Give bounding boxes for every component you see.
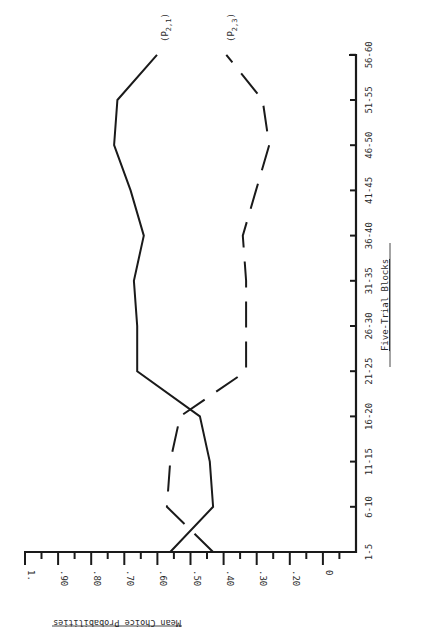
series-p21-line [114, 55, 213, 552]
value-tick-label: .90 [59, 570, 69, 586]
category-tick-label: 1-5 [364, 544, 374, 560]
category-tick-label: 21-25 [364, 358, 374, 385]
value-tick-label: .40 [225, 570, 235, 586]
x-axis-title: Five-Trial Blocks [380, 259, 390, 351]
series-p21-label: (P2,1) [160, 13, 173, 42]
chart: 1..90.80.70.60.50.40.30.200 1-56-1011-15… [0, 0, 421, 644]
axes [24, 54, 357, 553]
category-tick-label: 56-60 [364, 41, 374, 68]
value-tick-label: .80 [92, 570, 102, 586]
y-axis-ticks: 1..90.80.70.60.50.40.30.200 [25, 552, 339, 586]
value-tick-label: .30 [258, 570, 268, 586]
category-tick-label: 31-35 [364, 267, 374, 294]
value-tick-label: 1. [26, 570, 36, 581]
category-tick-label: 36-40 [364, 222, 374, 249]
value-tick-label: .50 [192, 570, 202, 586]
series-lines [114, 55, 269, 552]
series-p23-line [167, 55, 269, 552]
value-tick-label: .70 [125, 570, 135, 586]
category-tick-label: 26-30 [364, 312, 374, 339]
labels: Five-Trial BlocksMean Choice Probabiliti… [52, 13, 390, 628]
category-tick-label: 51-55 [364, 86, 374, 113]
category-tick-label: 46-50 [364, 132, 374, 159]
series-p23-label: (P2,3) [226, 13, 239, 42]
category-tick-label: 41-45 [364, 177, 374, 204]
value-tick-label: .60 [158, 570, 168, 586]
value-tick-label: .20 [291, 570, 301, 586]
x-axis-ticks: 1-56-1011-1516-2021-2526-3031-3536-4041-… [350, 41, 374, 560]
y-axis-title: Mean Choice Probabilities [53, 618, 181, 628]
value-tick-label: 0 [324, 570, 334, 575]
category-tick-label: 6-10 [364, 496, 374, 518]
category-tick-label: 11-15 [364, 448, 374, 475]
category-tick-label: 16-20 [364, 403, 374, 430]
